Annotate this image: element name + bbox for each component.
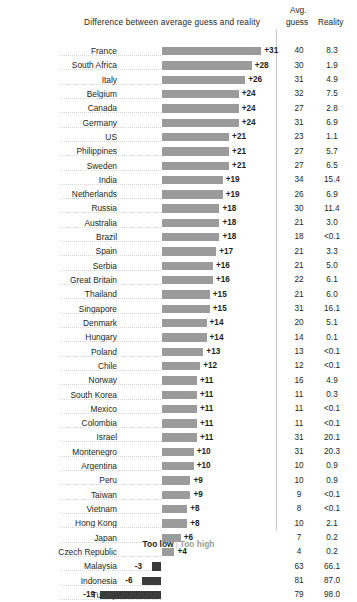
chart-row: Indonesia-68187.0 [0,574,357,588]
chart-rows: France+31408.3South Africa+28301.9Italy+… [0,44,357,602]
reality-value: 6.9 [317,190,347,199]
difference-bar [162,348,204,356]
avg-guess-value: 10 [288,476,310,485]
reality-value: 1.1 [317,132,347,141]
reality-value: 6.5 [317,161,347,170]
avg-guess-value: 13 [288,347,310,356]
avg-guess-value: 10 [288,519,310,528]
bar-wrapper: +24316.9 [0,116,357,130]
chart-row: Philippines+21275.7 [0,144,357,158]
chart-row: Mexico+1111<0.1 [0,402,357,416]
bar-wrapper: +24327.5 [0,87,357,101]
difference-bar [162,448,194,456]
difference-bar [162,90,239,98]
reality-value: 6.0 [317,290,347,299]
avg-guess-value: 31 [288,118,310,127]
reality-value: 0.1 [317,333,347,342]
avg-guess-value: 8 [288,504,310,513]
bar-value-label: +17 [219,247,233,256]
bar-value-label: +18 [222,204,236,213]
difference-bar [162,419,197,427]
difference-bar [162,333,207,341]
reality-value: 20.3 [317,447,347,456]
avg-guess-value: 21 [288,261,310,270]
bar-wrapper: +21276.5 [0,159,357,173]
avg-guess-value: 21 [288,218,310,227]
bar-wrapper: +28301.9 [0,58,357,72]
reality-value: <0.1 [317,490,347,499]
difference-bar [162,376,197,384]
reality-value: <0.1 [317,347,347,356]
avg-guess-value: 11 [288,404,310,413]
bar-value-label: +26 [248,75,262,84]
reality-value: 7.5 [317,89,347,98]
reality-value: <0.1 [317,361,347,370]
difference-bar [100,591,161,599]
avg-guess-value: 27 [288,161,310,170]
bar-wrapper: +21275.7 [0,144,357,158]
difference-bar [162,76,246,84]
bar-value-label: +16 [216,261,230,270]
reality-value: 2.8 [317,104,347,113]
chart-row: Argentina+10100.9 [0,459,357,473]
avg-guess-value: 32 [288,89,310,98]
chart-row: Vietnam+88<0.1 [0,502,357,516]
chart-row: Great Britain+16226.1 [0,273,357,287]
chart-row: Malaysia-36366.1 [0,559,357,573]
bar-wrapper: +18213.0 [0,216,357,230]
chart-row: Australia+18213.0 [0,216,357,230]
reality-value: 5.7 [317,147,347,156]
chart-row: Turkey-197998.0 [0,588,357,602]
chart-row: Italy+26314.9 [0,73,357,87]
bar-wrapper: -68187.0 [0,574,357,588]
difference-bar [162,204,220,212]
chart-row: Russia+183011.4 [0,201,357,215]
bar-wrapper: +24272.8 [0,101,357,115]
chart-row: Norway+11164.9 [0,373,357,387]
chart-row: Hong Kong+8102.1 [0,516,357,530]
difference-bar [162,119,239,127]
reality-value: 6.9 [317,118,347,127]
bar-wrapper: +11110.3 [0,388,357,402]
avg-guess-value: 20 [288,318,310,327]
column-header-avg-line1: Avg. [290,5,306,15]
bar-value-label: +13 [206,347,220,356]
difference-bar [162,162,230,170]
bar-wrapper: +14140.1 [0,330,357,344]
chart-row: Montenegro+103120.3 [0,445,357,459]
difference-bar [162,104,239,112]
chart-header: Difference between average guess and rea… [0,0,357,40]
bar-value-label: +10 [197,447,211,456]
chart-row: Netherlands+19266.9 [0,187,357,201]
bar-wrapper: +88<0.1 [0,502,357,516]
bar-value-label: +21 [232,161,246,170]
bar-value-label: +21 [232,132,246,141]
avg-guess-value: 30 [288,61,310,70]
difference-bar [162,319,207,327]
bar-value-label: -6 [125,576,132,585]
avg-guess-value: 27 [288,147,310,156]
reality-value: 66.1 [317,562,347,571]
bar-value-label: +16 [216,275,230,284]
difference-bar [162,305,210,313]
difference-bar [162,462,194,470]
bar-value-label: +9 [193,490,202,499]
avg-guess-value: 30 [288,204,310,213]
chart-title: Difference between average guess and rea… [84,17,260,27]
bar-value-label: -3 [135,562,142,571]
avg-guess-value: 23 [288,132,310,141]
chart-row: Belgium+24327.5 [0,87,357,101]
reality-value: <0.1 [317,504,347,513]
bar-wrapper: +14205.1 [0,316,357,330]
bar-value-label: +11 [200,419,213,428]
reality-value: 6.1 [317,275,347,284]
difference-bar [162,433,197,441]
bar-value-label: +21 [232,147,246,156]
avg-guess-value: 63 [288,562,310,571]
avg-guess-value: 18 [288,232,310,241]
reality-value: 3.3 [317,247,347,256]
reality-value: 0.3 [317,390,347,399]
bar-value-label: +8 [190,519,199,528]
column-header-reality: Reality [318,17,343,27]
chart-row: Hungary+14140.1 [0,330,357,344]
